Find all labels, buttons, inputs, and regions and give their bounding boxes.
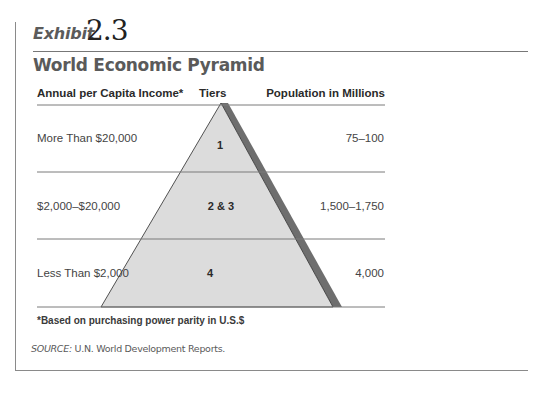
row-2-income: $2,000–$20,000 xyxy=(37,200,120,212)
pyramid-diagram xyxy=(0,0,548,393)
footnote: *Based on purchasing power parity in U.S… xyxy=(37,315,244,326)
row-2-tier: 2 & 3 xyxy=(191,200,251,212)
row-3-population: 4,000 xyxy=(355,267,384,279)
row-1-income: More Than $20,000 xyxy=(37,132,137,144)
source-prefix: SOURCE: xyxy=(31,343,72,354)
source-citation: SOURCE: U.N. World Development Reports. xyxy=(31,343,225,354)
row-1-population: 75–100 xyxy=(346,132,384,144)
row-3-income: Less Than $2,000 xyxy=(37,267,129,279)
row-2-population: 1,500–1,750 xyxy=(320,200,384,212)
row-3-tier: 4 xyxy=(180,267,240,279)
source-text: U.N. World Development Reports. xyxy=(72,343,225,354)
row-1-tier: 1 xyxy=(190,139,250,151)
